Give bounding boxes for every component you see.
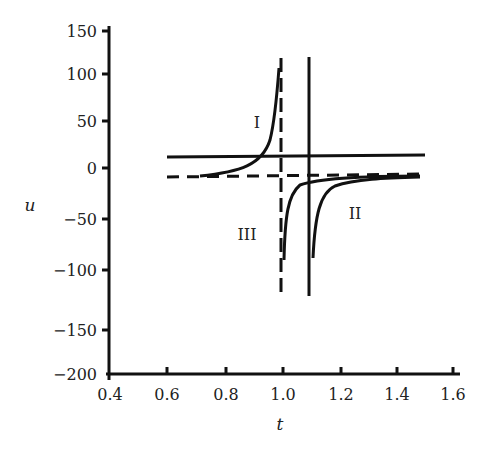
y-tick-label: 50 bbox=[77, 112, 97, 131]
curve-label-III: III bbox=[238, 225, 257, 244]
y-tick-label: −100 bbox=[53, 261, 97, 280]
y-axis-label: u bbox=[25, 195, 36, 215]
x-tick-label: 0.4 bbox=[97, 385, 122, 404]
x-tick-label: 1.0 bbox=[270, 385, 295, 404]
solid-horizontal-line bbox=[167, 155, 425, 157]
y-tick-label: 150 bbox=[66, 22, 97, 41]
curve-label-II: II bbox=[349, 204, 362, 223]
y-tick-labels: 150 100 50 0 −50 −100 −150 −200 bbox=[53, 22, 97, 384]
x-tick-label: 0.6 bbox=[154, 385, 179, 404]
x-tick-label: 1.6 bbox=[440, 385, 465, 404]
curve-II bbox=[313, 177, 420, 258]
y-tick-label: −50 bbox=[63, 210, 97, 229]
x-axis-label: t bbox=[277, 414, 284, 434]
y-tick-label: −150 bbox=[53, 321, 97, 340]
y-tick-label: 0 bbox=[87, 159, 97, 178]
y-tick-label: −200 bbox=[53, 365, 97, 384]
x-tick-label: 1.4 bbox=[384, 385, 409, 404]
x-tick-label: 0.8 bbox=[213, 385, 238, 404]
curve-label-I: I bbox=[254, 113, 260, 132]
y-tick-label: 100 bbox=[66, 65, 97, 84]
chart: 150 100 50 0 −50 −100 −150 −200 0.4 0.6 … bbox=[0, 0, 486, 458]
curve-I bbox=[200, 68, 279, 176]
x-tick-labels: 0.4 0.6 0.8 1.0 1.2 1.4 1.6 bbox=[97, 385, 465, 404]
x-tick-label: 1.2 bbox=[328, 385, 353, 404]
